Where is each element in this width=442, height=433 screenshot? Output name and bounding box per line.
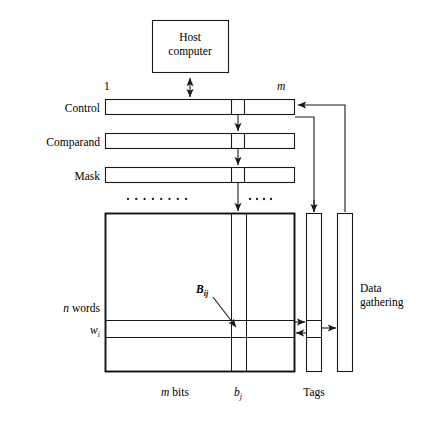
word-row-label: wi (90, 324, 100, 339)
tags-column-box (307, 214, 322, 372)
cell-callout-arrow (213, 297, 236, 327)
array-width-label: m bits (161, 386, 189, 398)
cell-label: Bij (195, 283, 209, 298)
comparand-register-bar (106, 134, 295, 149)
comparand-register-row: Comparand (46, 134, 294, 150)
host-computer-label-line1: Host (179, 31, 202, 43)
host-computer-block: Host computer (153, 21, 229, 73)
figure-canvas: Host computer 1 m Control Comparand (0, 0, 442, 433)
cell-symbol: B (195, 283, 204, 295)
comparand-register-label: Comparand (46, 136, 100, 149)
rows-count-word: words (69, 302, 101, 314)
array-width-word: bits (169, 386, 189, 398)
tags-column-block (307, 214, 322, 372)
data-gathering-column-box (338, 214, 353, 372)
ellipsis-dots-left (127, 198, 187, 200)
data-gathering-feedback-path (298, 105, 345, 212)
rows-count-label: n words (63, 302, 100, 314)
cell-subscript: ij (204, 289, 209, 298)
bit-column-subscript: j (239, 392, 243, 401)
bit-index-last-label: m (277, 80, 285, 92)
word-row-subscript: i (98, 330, 100, 339)
host-computer-label-line2: computer (168, 45, 212, 58)
data-gathering-label-line2: gathering (360, 296, 404, 309)
mask-register-row: Mask (74, 168, 294, 183)
mask-register-label: Mask (74, 170, 100, 182)
tags-feedback-path (295, 117, 314, 212)
control-register-label: Control (65, 102, 100, 114)
ellipsis-dots-right (249, 198, 272, 200)
data-gathering-label-line1: Data (360, 282, 382, 294)
array-width-symbol: m (161, 386, 169, 398)
control-register-bar (106, 100, 295, 115)
associative-memory-diagram: Host computer 1 m Control Comparand (0, 0, 442, 433)
mask-register-bar (106, 168, 295, 183)
control-register-row: Control (65, 100, 295, 115)
tags-label: Tags (303, 386, 325, 399)
bit-index-first-label: 1 (104, 80, 110, 92)
bit-column-label: bj (234, 386, 243, 401)
data-gathering-column-block: Data gathering (338, 214, 404, 372)
